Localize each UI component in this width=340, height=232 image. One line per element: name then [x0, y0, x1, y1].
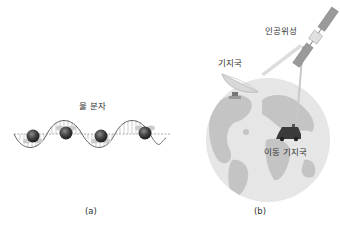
- base-station-label: 기지국: [218, 56, 242, 68]
- satellite-label: 인공위성: [265, 24, 297, 36]
- satellite-icon: [292, 6, 339, 67]
- water-molecule-label: 물 분자: [79, 99, 106, 111]
- panel-b-caption: (b): [254, 206, 266, 216]
- mobile-station-label: 이동 기지국: [264, 145, 307, 157]
- panel-a-caption: (a): [85, 206, 97, 216]
- water-molecules: [23, 126, 155, 144]
- water-molecule: [56, 126, 76, 140]
- globe: [206, 78, 330, 202]
- wave-diagram: [14, 120, 170, 148]
